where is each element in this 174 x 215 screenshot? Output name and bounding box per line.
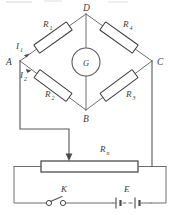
resistor-r3-subscript: 3 xyxy=(132,95,136,101)
slider-contact-arrow xyxy=(66,154,73,162)
resistor-r2-label: R xyxy=(44,89,51,99)
node-label-a: A xyxy=(5,57,12,67)
resistor-r2-subscript: 2 xyxy=(52,95,55,101)
galvanometer-branch: G xyxy=(72,14,100,110)
switch-blade[interactable] xyxy=(51,197,63,202)
resistor-r3-label: R xyxy=(125,89,132,99)
resistor-r1-subscript: 1 xyxy=(50,25,53,31)
resistor-r4-subscript: 4 xyxy=(130,25,133,31)
node-label-c: C xyxy=(157,57,164,67)
switch-k[interactable] xyxy=(46,197,65,206)
galvanometer-label: G xyxy=(83,58,89,68)
rheostat xyxy=(14,161,166,172)
rheostat-label: R xyxy=(99,144,106,154)
battery-e xyxy=(113,198,151,209)
resistor-r1-label: R xyxy=(42,19,49,29)
current-label-i1-subscript: 1 xyxy=(20,47,23,53)
rheostat-subscript: n xyxy=(107,150,110,156)
node-label-d: D xyxy=(82,3,90,13)
current-arrow-i2 xyxy=(26,69,32,73)
scan-artifact xyxy=(6,0,128,3)
resistor-r1 xyxy=(34,22,72,53)
circuit-diagram-figure: G R 1 R 4 R 2 R 3 D A C B xyxy=(0,0,174,215)
switch-right-terminal xyxy=(60,200,65,205)
node-label-b: B xyxy=(83,114,89,124)
switch-label: K xyxy=(60,184,68,194)
battery-label: E xyxy=(123,184,130,194)
resistor-r4-label: R xyxy=(122,19,129,29)
rheostat-body xyxy=(41,161,138,172)
current-label-i2-subscript: 2 xyxy=(24,76,27,82)
